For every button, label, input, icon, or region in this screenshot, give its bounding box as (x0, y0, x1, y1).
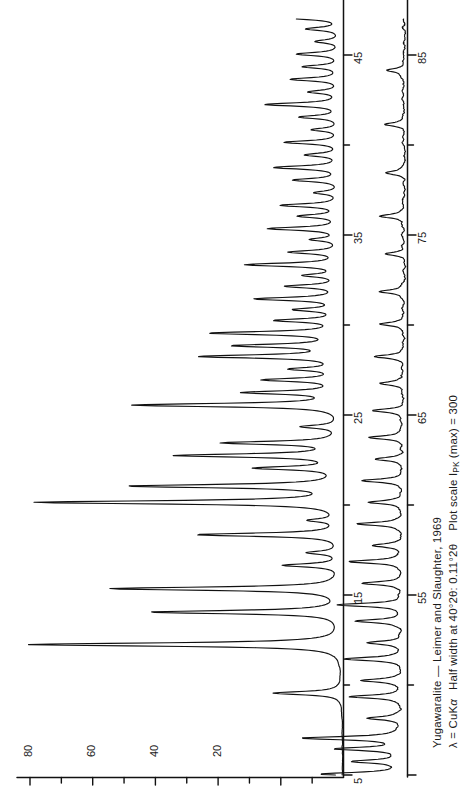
two-theta-tick-label-35: 35 (352, 232, 364, 244)
two-theta-tick-label-45: 45 (352, 52, 364, 64)
two-theta-tick-label-65: 65 (416, 412, 428, 424)
caption-plot-scale-prefix: Plot scale I (447, 473, 459, 531)
intensity-tick-label-60: 60 (85, 745, 97, 757)
intensity-tick-label-80: 80 (22, 745, 34, 757)
diffractogram-figure: Yugawaralite — Leimer and Slaughter, 196… (0, 0, 465, 806)
intensity-tick-label-20: 20 (211, 745, 223, 757)
caption-line-mineral-authors: Yugawaralite — Leimer and Slaughter, 196… (431, 517, 443, 748)
caption-wavelength-alpha: α (447, 699, 459, 706)
xrd-plot-canvas (0, 0, 465, 806)
two-theta-tick-label-85: 85 (416, 52, 428, 64)
caption-dash: — (431, 662, 443, 680)
two-theta-tick-label-25: 25 (352, 412, 364, 424)
two-theta-tick-label-55: 55 (416, 592, 428, 604)
caption-line-conditions: λ = CuKαHalf width at 40°2θ: 0.11°2θPlot… (447, 395, 461, 748)
caption-wavelength: λ = CuK (447, 706, 459, 748)
caption-mineral-name: Yugawaralite (431, 680, 443, 748)
caption-authors: Leimer and Slaughter, 1969 (431, 517, 443, 662)
caption-half-width: Half width at 40°2θ: 0.11°2θ (447, 544, 459, 690)
caption-plot-scale-subscript: PK (451, 462, 461, 473)
two-theta-tick-label-15: 15 (352, 592, 364, 604)
two-theta-tick-label-5: 5 (352, 778, 364, 784)
intensity-tick-label-40: 40 (148, 745, 160, 757)
two-theta-tick-label-75: 75 (416, 232, 428, 244)
caption-plot-scale-value: (max) = 300 (447, 395, 459, 462)
